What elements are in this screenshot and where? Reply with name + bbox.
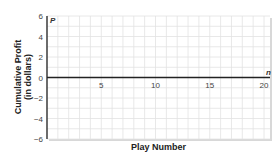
svg-text:5: 5 [99,81,104,90]
svg-text:−2: −2 [34,94,44,103]
svg-text:−4: −4 [34,115,44,124]
svg-text:15: 15 [205,81,214,90]
svg-text:P: P [50,16,56,25]
svg-text:−6: −6 [34,135,44,144]
y-axis-label: Cumulative Profit(in dollars) [13,32,33,122]
svg-text:0: 0 [39,74,44,83]
svg-text:n: n [266,68,271,77]
svg-text:20: 20 [260,81,269,90]
svg-text:4: 4 [39,33,44,42]
x-axis-label: Play Number [131,142,186,152]
svg-text:6: 6 [39,12,44,21]
svg-text:2: 2 [39,53,44,62]
chart-plot: −6−4−202465101520Pn [0,0,278,160]
svg-text:10: 10 [151,81,160,90]
